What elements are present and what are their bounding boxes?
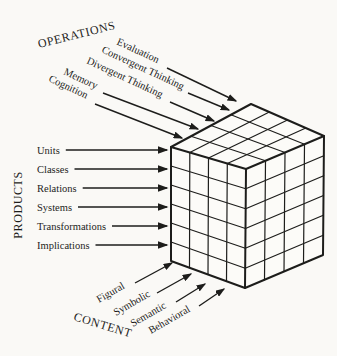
content-item-figural: Figural xyxy=(95,280,127,305)
products-item-systems: Systems xyxy=(37,202,72,213)
products-item-units: Units xyxy=(37,145,60,156)
content-arrow-3 xyxy=(176,284,205,302)
structure-of-intellect-diagram: OPERATIONS Evaluation Convergent Thinkin… xyxy=(0,0,337,356)
operations-arrow-5 xyxy=(95,104,182,138)
operations-axis: OPERATIONS Evaluation Convergent Thinkin… xyxy=(36,18,236,138)
products-item-implications: Implications xyxy=(37,240,90,251)
operations-arrow-3 xyxy=(170,102,214,121)
content-arrow-2 xyxy=(157,274,191,293)
products-item-classes: Classes xyxy=(37,164,69,175)
content-arrow-1 xyxy=(135,263,172,283)
content-title: CONTENT xyxy=(72,309,134,340)
cube-silhouette xyxy=(171,104,324,288)
content-arrow-4 xyxy=(199,289,224,306)
content-axis: CONTENT Figural Symbolic Semantic Behavi… xyxy=(72,263,224,340)
cube xyxy=(171,104,324,288)
products-item-transformations: Transformations xyxy=(37,221,106,232)
products-axis: PRODUCTS Units Classes Relations Systems… xyxy=(11,145,167,251)
operations-arrow-2 xyxy=(188,93,229,110)
operations-arrow-4 xyxy=(103,93,198,129)
products-item-relations: Relations xyxy=(37,183,77,194)
products-title: PRODUCTS xyxy=(11,171,25,238)
soi-cube-figure: OPERATIONS Evaluation Convergent Thinkin… xyxy=(0,0,337,356)
cube-edge-front-vertical xyxy=(245,169,246,288)
